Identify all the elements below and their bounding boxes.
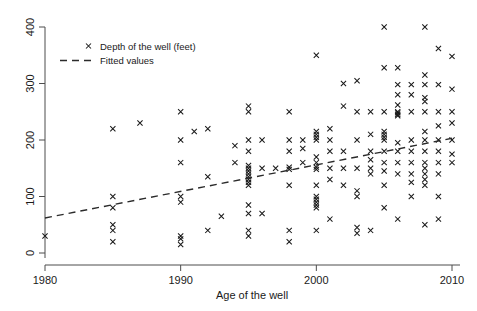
legend: Depth of the well (feet) Fitted values: [60, 41, 196, 66]
data-point-marker: [422, 72, 427, 77]
data-point-marker: [314, 135, 319, 140]
data-point-marker: [422, 109, 427, 114]
data-point-marker: [232, 160, 237, 165]
data-point-marker: [178, 200, 183, 205]
data-point-marker: [382, 183, 387, 188]
data-point-marker: [314, 205, 319, 210]
x-tick-group: 1980199020002010: [33, 265, 464, 286]
data-point-marker: [368, 171, 373, 176]
data-point-marker: [246, 180, 251, 185]
data-point-marker: [382, 24, 387, 29]
data-point-marker: [395, 102, 400, 107]
data-point-marker: [422, 24, 427, 29]
data-point-marker: [246, 171, 251, 176]
data-point-marker: [246, 168, 251, 173]
data-point-marker: [354, 225, 359, 230]
fitted-values-line: [45, 138, 452, 218]
data-point-marker: [382, 109, 387, 114]
y-axis: 0100200300400: [24, 18, 45, 258]
data-point-marker: [436, 171, 441, 176]
data-point-marker: [300, 146, 305, 151]
data-point-marker: [327, 166, 332, 171]
data-point-marker: [314, 154, 319, 159]
data-point-marker: [110, 239, 115, 244]
data-point-marker: [246, 104, 251, 109]
data-point-marker: [436, 194, 441, 199]
y-tick-label: 100: [24, 187, 36, 205]
y-tick-label: 0: [24, 250, 36, 256]
y-tick-group: 0100200300400: [24, 18, 45, 256]
data-point-marker: [287, 228, 292, 233]
x-axis-title: Age of the well: [216, 289, 288, 301]
data-point-marker: [382, 65, 387, 70]
data-point-marker: [449, 109, 454, 114]
data-point-marker: [354, 109, 359, 114]
data-point-marker: [368, 149, 373, 154]
data-point-marker: [314, 202, 319, 207]
data-point-marker: [422, 137, 427, 142]
legend-marker-x-icon: [86, 44, 91, 49]
data-point-marker: [449, 87, 454, 92]
data-point-marker: [368, 132, 373, 137]
data-point-marker: [178, 233, 183, 238]
legend-entry-fitted: Fitted values: [60, 55, 154, 66]
data-point-marker: [314, 200, 319, 205]
data-point-marker: [382, 205, 387, 210]
data-point-marker: [422, 222, 427, 227]
data-point-marker: [422, 129, 427, 134]
data-point-marker: [395, 65, 400, 70]
data-point-marker: [354, 78, 359, 83]
data-point-marker: [395, 149, 400, 154]
data-point-marker: [449, 54, 454, 59]
data-point-marker: [436, 217, 441, 222]
data-point-marker: [382, 160, 387, 165]
data-point-marker: [409, 180, 414, 185]
data-point-marker: [354, 194, 359, 199]
data-point-marker: [422, 166, 427, 171]
data-point-marker: [246, 163, 251, 168]
data-point-marker: [246, 137, 251, 142]
data-point-marker: [205, 126, 210, 131]
data-point-marker: [422, 82, 427, 87]
data-point-marker: [246, 183, 251, 188]
data-point-marker: [368, 157, 373, 162]
data-point-marker: [314, 228, 319, 233]
data-point-marker: [314, 183, 319, 188]
data-point-marker: [287, 183, 292, 188]
data-point-marker: [246, 149, 251, 154]
data-point-marker: [409, 92, 414, 97]
data-point-marker: [327, 126, 332, 131]
data-point-marker: [314, 137, 319, 142]
data-point-marker: [409, 82, 414, 87]
data-point-marker: [110, 126, 115, 131]
data-point-marker: [205, 228, 210, 233]
legend-entry-depth: Depth of the well (feet): [86, 41, 196, 52]
data-point-marker: [354, 231, 359, 236]
data-point-marker: [341, 149, 346, 154]
data-point-marker: [178, 109, 183, 114]
data-point-marker: [341, 81, 346, 86]
y-tick-label: 200: [24, 131, 36, 149]
data-point-marker: [314, 194, 319, 199]
data-point-marker: [409, 160, 414, 165]
data-point-marker: [368, 109, 373, 114]
data-point-marker: [341, 183, 346, 188]
data-point-marker: [327, 137, 332, 142]
data-point-marker: [395, 140, 400, 145]
data-point-marker: [395, 82, 400, 87]
plot-canvas: 0100200300400 1980199020002010 Depth of …: [0, 0, 477, 311]
data-point-marker: [314, 132, 319, 137]
data-point-marker: [436, 160, 441, 165]
data-point-marker: [327, 177, 332, 182]
data-point-marker: [178, 137, 183, 142]
data-point-marker: [382, 137, 387, 142]
data-point-marker: [205, 174, 210, 179]
data-point-marker: [314, 53, 319, 58]
data-point-marker: [314, 129, 319, 134]
data-point-marker: [110, 222, 115, 227]
data-point-marker: [422, 160, 427, 165]
data-point-marker: [368, 166, 373, 171]
data-point-marker: [110, 205, 115, 210]
data-point-marker: [314, 197, 319, 202]
data-point-marker: [246, 109, 251, 114]
